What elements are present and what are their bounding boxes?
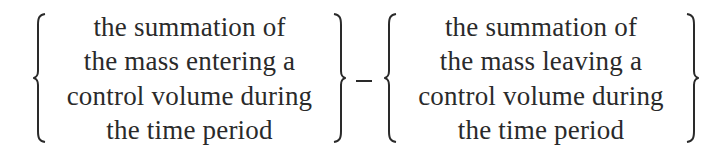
minus-operator bbox=[356, 80, 372, 82]
term-line: the time period bbox=[106, 115, 272, 145]
term-line: the mass leaving a bbox=[440, 46, 642, 76]
left-brace-close bbox=[332, 13, 346, 143]
right-brace-open bbox=[384, 13, 398, 143]
term-line: the time period bbox=[458, 115, 624, 145]
term-line: the summation of bbox=[445, 12, 637, 42]
term-line: the summation of bbox=[93, 12, 285, 42]
term-line: control volume during bbox=[418, 81, 664, 111]
left-brace-open bbox=[33, 13, 47, 143]
entering-mass-term: the summation of the mass entering a con… bbox=[48, 12, 331, 145]
leaving-mass-term: the summation of the mass leaving a cont… bbox=[398, 12, 684, 145]
term-line: control volume during bbox=[67, 81, 313, 111]
term-line: the mass entering a bbox=[84, 46, 295, 76]
right-brace-close bbox=[685, 13, 699, 143]
